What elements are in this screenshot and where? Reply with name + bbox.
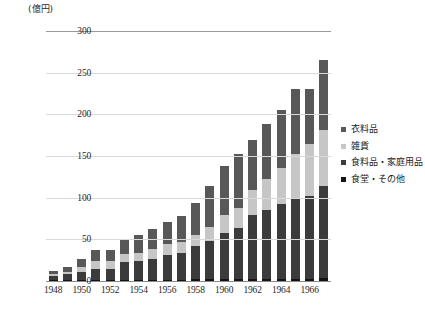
legend-swatch-icon [341,127,346,132]
bar-segment [91,261,100,269]
bar-segment [106,261,115,269]
y-tick-label-300: 300 [61,26,91,36]
bar-segment [163,255,172,280]
bar-1948 [49,271,58,281]
y-tick-label-100: 100 [61,193,91,203]
bar-segment [205,186,214,227]
bar-1960 [220,166,229,281]
bar-1966 [305,89,314,281]
bar-1961 [234,154,243,281]
bar-segment [262,210,271,278]
bar-segment [319,186,328,278]
legend-item: 衣料品 [341,124,423,135]
legend-swatch-icon [341,144,346,149]
bar-segment [205,241,214,279]
bar-segment [148,249,157,258]
bar-1957 [177,216,186,281]
bar-segment [177,253,186,281]
legend-swatch-icon [341,160,346,165]
bar-chart: (億円) 050100150200250300 1948195019521954… [0,0,425,312]
legend-item: 食堂・その他 [341,174,423,185]
bar-1951 [91,250,100,281]
bar-segment [134,253,143,261]
legend-label: 衣料品 [351,124,378,135]
bar-segment [248,140,257,190]
bar-segment [77,259,86,267]
bar-segment [177,242,186,253]
bar-segment [163,222,172,245]
bar-1963 [262,124,271,281]
bar-segment [91,269,100,281]
legend-swatch-icon [341,177,346,182]
legend-item: 食料品・家庭用品 [341,157,423,168]
bar-segment [134,261,143,280]
bar-segment [277,204,286,278]
bar-segment [305,89,314,144]
bar-1954 [134,235,143,281]
bar-segment [277,168,286,205]
bar-segment [291,198,300,279]
bar-1967 [319,60,328,281]
bar-segment [248,190,257,215]
bar-1958 [191,203,200,281]
bar-1962 [248,140,257,281]
legend-item: 雑貨 [341,141,423,152]
bar-segment [234,154,243,207]
bar-segment [277,110,286,168]
y-tick-label-250: 250 [61,68,91,78]
bar-segment [106,250,115,261]
bar-segment [319,60,328,130]
legend-label: 食堂・その他 [351,174,405,185]
bar-segment [262,179,271,210]
bar-segment [234,228,243,279]
bar-segment [248,215,257,278]
bar-segment [106,269,115,281]
bar-1953 [120,239,129,281]
bar-segment [191,235,200,246]
y-tick-label-150: 150 [61,151,91,161]
bar-segment [262,124,271,180]
bar-segment [220,215,229,233]
bar-segment [148,259,157,281]
bar-segment [120,254,129,262]
bar-segment [134,235,143,253]
bar-1952 [106,250,115,281]
bar-segment [91,250,100,261]
bar-segment [191,246,200,279]
y-axis-unit-label: (億円) [28,2,53,15]
bar-1956 [163,222,172,281]
bar-segment [305,144,314,196]
bar-segment [305,196,314,279]
legend: 衣料品雑貨食料品・家庭用品食堂・その他 [341,124,423,190]
bar-segment [291,89,300,153]
bar-segment [291,154,300,198]
x-tick-label-1966: 1966 [290,285,330,295]
bar-segment [220,166,229,215]
legend-label: 食料品・家庭用品 [351,157,423,168]
bar-1964 [277,110,286,281]
bar-segment [319,130,328,186]
y-tick-label-50: 50 [61,234,91,244]
bar-segment [191,203,200,236]
bar-segment [120,239,129,254]
bar-segment [177,216,186,242]
legend-label: 雑貨 [351,141,369,152]
bar-1955 [148,229,157,281]
bar-1965 [291,89,300,281]
bar-1959 [205,186,214,281]
bar-segment [163,244,172,255]
y-tick-label-200: 200 [61,109,91,119]
bar-segment [120,262,129,280]
bar-segment [234,208,243,228]
